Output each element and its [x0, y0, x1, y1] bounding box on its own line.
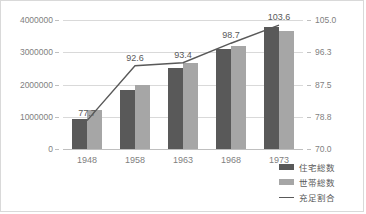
- left-y-tick-label: 2000000: [20, 80, 53, 90]
- x-axis-label: 1958: [111, 155, 159, 165]
- x-axis-label: 1968: [207, 155, 255, 165]
- legend-item[interactable]: 住宅総数: [279, 161, 335, 173]
- legend-label: 住宅総数: [299, 161, 335, 173]
- legend-label: 世帯総数: [299, 176, 335, 188]
- data-label: 77.7: [78, 108, 96, 118]
- right-y-tick-label: 105.0: [315, 15, 336, 25]
- left-y-tick-label: 1000000: [20, 112, 53, 122]
- left-y-tick-mark: [55, 52, 59, 53]
- right-y-tick-label: 78.8: [315, 112, 332, 122]
- left-y-tick-mark: [55, 20, 59, 21]
- right-y-tick-label: 96.3: [315, 47, 332, 57]
- legend-item[interactable]: 世帯総数: [279, 176, 335, 188]
- legend-swatch-icon: [279, 197, 294, 198]
- x-axis-label: 1948: [63, 155, 111, 165]
- right-y-tick-label: 70.0: [315, 144, 332, 154]
- chart-legend: 住宅総数世帯総数充足割合: [279, 161, 335, 203]
- data-label: 92.6: [126, 53, 144, 63]
- legend-label: 充足割合: [299, 191, 335, 203]
- left-y-tick-mark: [55, 149, 59, 150]
- x-axis-line: [63, 149, 303, 150]
- left-y-tick-label: 4000000: [20, 15, 53, 25]
- left-y-tick-mark: [55, 117, 59, 118]
- legend-item[interactable]: 充足割合: [279, 191, 335, 203]
- x-axis-labels: 19481958196319681973: [63, 155, 303, 165]
- data-label: 103.6: [268, 12, 291, 22]
- legend-swatch-icon: [279, 179, 294, 185]
- data-label: 93.4: [174, 50, 192, 60]
- plot-area: 77.792.693.498.7103.6: [63, 20, 303, 149]
- line-path[interactable]: [87, 25, 279, 120]
- right-y-tick-mark: [307, 52, 311, 53]
- x-axis-label: 1963: [159, 155, 207, 165]
- left-y-axis: 01000000200000030000004000000: [1, 1, 59, 211]
- right-y-tick-mark: [307, 117, 311, 118]
- data-label: 98.7: [222, 30, 240, 40]
- left-y-tick-label: 0: [48, 144, 53, 154]
- chart-container: 01000000200000030000004000000 70.078.887…: [0, 0, 364, 212]
- legend-swatch-icon: [279, 164, 294, 170]
- left-y-tick-label: 3000000: [20, 47, 53, 57]
- left-y-tick-mark: [55, 85, 59, 86]
- right-y-tick-mark: [307, 20, 311, 21]
- line-series-overlay: [63, 20, 303, 149]
- right-y-tick-mark: [307, 149, 311, 150]
- right-y-tick-mark: [307, 85, 311, 86]
- right-y-tick-label: 87.5: [315, 80, 332, 90]
